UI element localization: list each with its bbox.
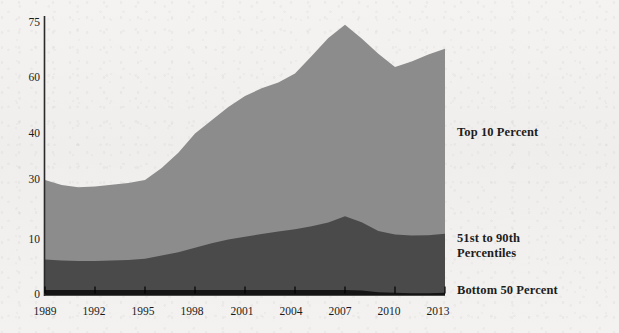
stacked-area-chart-figure: 75 60 40 30 10 0 1989 1992 1995 1998 200… — [0, 0, 619, 333]
area-series-group — [45, 25, 445, 296]
legend-mid-line1: 51st to 90th — [457, 231, 520, 245]
legend-label-bottom-50-percent: Bottom 50 Percent — [457, 283, 558, 298]
legend-top-10-line1: Top 10 Percent — [457, 125, 538, 139]
legend-label-top-10-percent: Top 10 Percent — [457, 125, 538, 140]
legend-mid-line2: Percentiles — [457, 246, 516, 260]
legend-bottom-line1: Bottom 50 Percent — [457, 283, 558, 297]
legend-label-51st-to-90th-percentiles: 51st to 90th Percentiles — [457, 231, 520, 262]
